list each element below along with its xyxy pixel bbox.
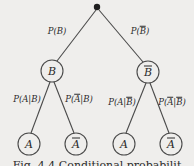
edge-label-P-Abar-given-B: P(A|B) [65, 95, 93, 104]
edge-label-prefix: P( [108, 97, 117, 107]
edge-label-prefix: P( [65, 94, 74, 104]
edge-B-to-A [31, 82, 50, 133]
node-label-Bbar: B [144, 67, 152, 78]
edge-label-P-A-given-Bbar: P(A|B) [108, 98, 136, 107]
edge-Bbar-to-A [126, 83, 146, 133]
edge-root-to-Bbar [99, 10, 143, 62]
node-label-A-left: A [25, 139, 33, 150]
node-label-B: B [48, 66, 56, 77]
edge-label-suffix: ) [89, 94, 92, 104]
probability-tree-figure: B B A A A A P(B) P(B) P(A|B) P(A|B) P(A|… [0, 0, 194, 166]
edge-label-P-A-given-B: P(A|B) [13, 95, 41, 104]
edge-label-P-B: P(B) [48, 27, 67, 36]
node-label-B-text: B [48, 65, 56, 78]
node-label-Abar-left: A [72, 139, 80, 150]
edge-label-P-Bbar: P(B) [131, 27, 150, 36]
node-label-Bbar-text: B [144, 67, 152, 78]
edge-label-cond: B [126, 98, 132, 107]
node-label-Abar-right-text: A [167, 139, 175, 150]
edge-label-main: B [140, 27, 146, 36]
edge-label-prefix: P( [13, 94, 22, 104]
edge-label-cond: B [176, 98, 182, 107]
edge-label-main: A [167, 98, 173, 107]
node-label-A-right-text: A [120, 138, 128, 151]
edge-label-prefix: P( [48, 26, 57, 36]
edge-label-suffix: ) [63, 26, 66, 36]
edge-label-P-Abar-given-Bbar: P(A|B) [158, 98, 186, 107]
root-node-dot [94, 4, 100, 10]
node-label-Abar-right: A [167, 139, 175, 150]
edge-label-main: A [74, 95, 80, 104]
edge-label-prefix: P( [131, 26, 140, 36]
edge-label-suffix: ) [146, 26, 149, 36]
edge-Bbar-to-Abar [150, 83, 169, 133]
node-label-A-right: A [120, 139, 128, 150]
edge-label-prefix: P( [158, 97, 167, 107]
node-label-Abar-left-text: A [72, 139, 80, 150]
edge-label-suffix: ) [132, 97, 135, 107]
edge-B-to-Abar [54, 82, 74, 133]
figure-caption: Fig. 4.4 Conditional probabilit [0, 159, 194, 166]
node-label-A-left-text: A [25, 138, 33, 151]
edge-label-suffix: ) [182, 97, 185, 107]
edge-label-suffix: ) [37, 94, 40, 104]
